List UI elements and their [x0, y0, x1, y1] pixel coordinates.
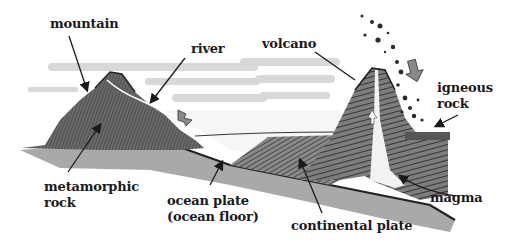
falling-ejecta-arrow-icon: [403, 58, 426, 84]
label-metamorphic-rock-line2: rock: [44, 196, 76, 210]
label-igneous-rock-line1: igneous: [437, 81, 493, 95]
label-ocean-plate-line2: (ocean floor): [167, 210, 259, 224]
rock-cycle-diagram: mountain river volcano igneous rock meta…: [0, 0, 514, 249]
label-metamorphic-rock-line1: metamorphic: [44, 180, 139, 194]
label-magma: magma: [430, 191, 482, 205]
label-mountain: mountain: [50, 17, 119, 31]
label-igneous-rock-line2: rock: [437, 97, 469, 111]
label-volcano: volcano: [262, 37, 316, 51]
sky-streaks: [28, 58, 340, 102]
label-continental-plate: continental plate: [291, 219, 412, 233]
label-ocean-plate-line1: ocean plate: [167, 194, 249, 208]
label-river: river: [191, 42, 224, 56]
